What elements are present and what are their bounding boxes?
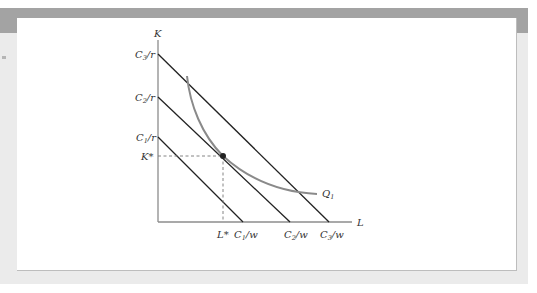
isocost-line-c1	[158, 137, 243, 222]
k-star-label: K*	[140, 151, 153, 162]
c2-r-label: C2/r	[135, 92, 156, 105]
l-star-label: L*	[216, 229, 229, 240]
c3-r-label: C3/r	[135, 49, 156, 62]
isocost-isoquant-diagram: K L C3/r C2/r C1/r K* L* C1/w C2/w C3/w …	[0, 0, 537, 293]
c3-w-label: C3/w	[320, 229, 344, 242]
l-axis-label: L	[356, 217, 364, 228]
isoquant-curve	[187, 76, 317, 194]
q1-label: Q1	[322, 188, 334, 201]
c2-w-label: C2/w	[284, 229, 308, 242]
k-axis-label: K	[153, 28, 162, 39]
c1-r-label: C1/r	[136, 132, 157, 145]
optimum-point	[220, 153, 226, 159]
isocost-line-c3	[158, 54, 329, 222]
c1-w-label: C1/w	[234, 229, 258, 242]
